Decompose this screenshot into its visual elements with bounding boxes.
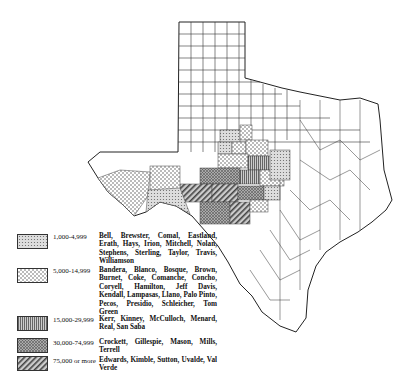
legend-range: 1,000-4,999 <box>53 233 87 241</box>
legend-range: 30,000-74,999 <box>53 339 94 347</box>
legend-range: 5,000-14,999 <box>53 267 90 275</box>
swatch-icon <box>17 234 48 249</box>
legend-counties: Bandera, Blanco, Bosque, Brown, Burnet, … <box>99 266 217 316</box>
swatch-icon <box>17 268 48 283</box>
legend-counties: Bell, Brewster, Comal, Eastland, Erath, … <box>99 232 217 266</box>
legend-counties: Crockett, Gillespie, Mason, Mills, Terre… <box>99 338 217 355</box>
legend-range: 75,000 or more <box>53 357 96 365</box>
swatch-icon <box>17 356 48 371</box>
legend-range: 15,000-29,999 <box>53 316 94 324</box>
legend-counties: Kerr, Kinney, McCulloch, Menard, Real, S… <box>99 315 217 332</box>
swatch-icon <box>17 316 48 331</box>
legend-counties: Edwards, Kimble, Sutton, Uvalde, Val Ver… <box>99 356 217 373</box>
swatch-icon <box>17 338 48 353</box>
